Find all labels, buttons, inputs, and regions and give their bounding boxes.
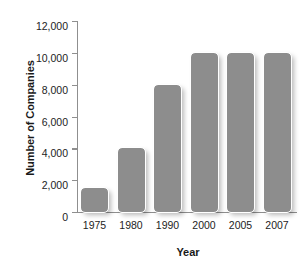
x-axis-tick-label: 1990 [148,219,187,231]
bar [227,53,254,212]
x-axis-tick-label: 1980 [112,219,151,231]
bar [154,85,181,212]
x-axis-title: Year [78,246,298,258]
bar [264,53,291,212]
x-axis-tick-label: 2000 [185,219,224,231]
x-axis-tick-label: 2005 [221,219,260,231]
x-axis-tick-label: 2007 [258,219,297,231]
bar-chart: Number of Companies 02,0004,0006,0008,00… [0,0,307,271]
bar [118,148,145,212]
x-axis-tick-label: 1975 [75,219,114,231]
bar [191,53,218,212]
bar [81,188,108,212]
